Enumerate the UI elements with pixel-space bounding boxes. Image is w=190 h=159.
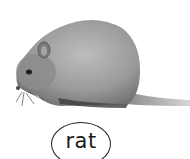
- rat-head: [16, 54, 56, 90]
- word-label: rat: [65, 129, 96, 153]
- rat-photo: [0, 0, 190, 120]
- word-label-oval: rat: [51, 122, 111, 159]
- rat-eye: [26, 70, 32, 75]
